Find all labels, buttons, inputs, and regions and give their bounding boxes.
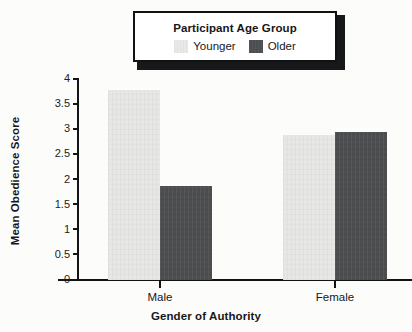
y-axis-tick: 2 (64, 174, 78, 185)
y-axis-tick: 4 (64, 73, 78, 84)
y-axis-tick-label: 1 (64, 224, 73, 235)
plot-area (78, 79, 412, 280)
x-axis-category-label: Female (316, 291, 354, 303)
y-axis-tick: 3 (64, 123, 78, 134)
y-axis-tick: 1.5 (55, 199, 78, 210)
x-axis-title: Gender of Authority (0, 310, 412, 322)
y-axis-tick: 0.5 (55, 249, 78, 260)
legend-entry-younger: Younger (174, 40, 235, 53)
y-axis-tick-label: 0.5 (55, 249, 73, 260)
legend-entries: Younger Older (174, 40, 296, 53)
y-axis-tick: 0 (64, 274, 78, 285)
bar-chart-figure: Participant Age Group Younger Older Mean… (0, 0, 412, 332)
y-axis-title-text: Mean Obedience Score (9, 96, 21, 266)
bar-male-older (160, 186, 212, 280)
x-axis-tick-mark (159, 281, 161, 288)
y-axis-tick: 1 (64, 224, 78, 235)
legend-entry-older: Older (249, 40, 296, 53)
bar-female-older (335, 132, 387, 280)
y-axis-tick-label: 3 (64, 123, 73, 134)
older-swatch-icon (249, 40, 263, 53)
y-axis-tick-label: 4 (64, 73, 73, 84)
x-axis-category-label: Male (148, 291, 173, 303)
legend: Participant Age Group Younger Older (133, 11, 337, 62)
legend-title: Participant Age Group (173, 22, 297, 35)
y-axis-tick-label: 0 (64, 274, 73, 285)
y-axis-tick-label: 2.5 (55, 148, 73, 159)
bar-male-younger (108, 90, 160, 280)
younger-swatch-icon (174, 40, 188, 53)
x-axis-tick-mark (334, 281, 336, 288)
y-axis-tick: 3.5 (55, 98, 78, 109)
y-axis-title: Mean Obedience Score (9, 0, 21, 96)
bar-female-younger (283, 135, 335, 280)
legend-label-younger: Younger (193, 40, 235, 53)
legend-label-older: Older (268, 40, 296, 53)
y-axis-tick-label: 2 (64, 174, 73, 185)
y-axis-tick: 2.5 (55, 148, 78, 159)
y-axis-tick-label: 3.5 (55, 98, 73, 109)
y-axis-tick-label: 1.5 (55, 199, 73, 210)
